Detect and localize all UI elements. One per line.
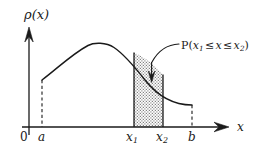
density-curve <box>42 43 192 105</box>
annotation-relation-1: ≤ <box>204 39 216 52</box>
annotation-arg1-subscript: 1 <box>199 44 204 53</box>
tick-label-x2-base: x <box>156 130 163 144</box>
probability-density-figure: ρ(x) 0 a x1 x2 b x P(x1≤x≤x2) <box>0 0 266 157</box>
annotation-arg1-base: x <box>193 39 199 52</box>
tick-label-a: a <box>38 131 45 143</box>
annotation-suffix: ) <box>245 39 249 52</box>
annotation-variable: x <box>216 39 222 52</box>
tick-label-x1-subscript: 1 <box>133 136 138 145</box>
annotation-prefix: P( <box>181 39 193 52</box>
shaded-region-fill <box>133 50 165 128</box>
annotation-arg2-base: x <box>234 39 240 52</box>
tick-label-x1-base: x <box>126 130 133 144</box>
probability-annotation: P(x1≤x≤x2) <box>181 40 249 52</box>
shaded-probability-region <box>133 50 165 128</box>
annotation-relation-2: ≤ <box>222 39 234 52</box>
y-axis <box>25 27 33 135</box>
origin-label: 0 <box>20 131 28 143</box>
tick-label-b: b <box>188 131 196 143</box>
x-axis-label: x <box>237 121 244 133</box>
annotation-leader-line <box>152 44 179 62</box>
tick-label-x1: x1 <box>126 131 138 145</box>
y-axis-label: ρ(x) <box>24 8 49 21</box>
tick-label-x2: x2 <box>156 131 168 145</box>
tick-label-x2-subscript: 2 <box>163 136 168 145</box>
